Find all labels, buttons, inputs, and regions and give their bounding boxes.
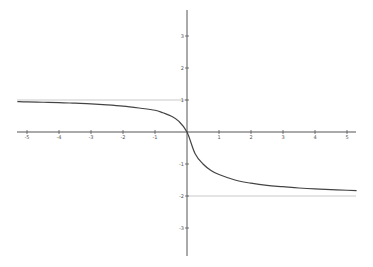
x-tick-label: -5 — [25, 134, 30, 140]
x-tick-label: -3 — [89, 134, 94, 140]
y-tick-label: -2 — [179, 193, 184, 199]
x-tick-label: -2 — [121, 134, 126, 140]
y-tick-label: 2 — [181, 65, 184, 71]
x-tick-label: 1 — [217, 134, 220, 140]
x-tick-label: 5 — [345, 134, 348, 140]
x-tick-label: 2 — [249, 134, 252, 140]
graph-plot: -5-4-3-2-112345321-1-2-3 — [0, 0, 373, 267]
y-tick-label: 1 — [181, 97, 184, 103]
x-tick-label: -4 — [57, 134, 62, 140]
x-tick-label: -1 — [153, 134, 158, 140]
y-tick-label: -1 — [179, 161, 184, 167]
y-tick-label: -3 — [179, 225, 184, 231]
x-tick-label: 3 — [281, 134, 284, 140]
y-tick-label: 3 — [181, 33, 184, 39]
x-tick-label: 4 — [313, 134, 316, 140]
